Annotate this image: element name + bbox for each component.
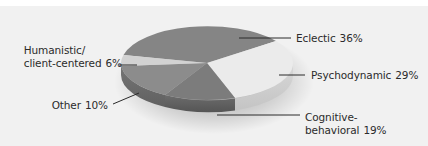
label-other-name: Other <box>52 99 81 111</box>
label-other: Other10% <box>52 99 108 112</box>
label-cognitive-pct: 19% <box>363 124 386 136</box>
label-eclectic-pct: 36% <box>340 32 363 44</box>
label-psychodynamic: Psychodynamic29% <box>311 69 418 82</box>
pie-chart: Eclectic36% Psychodynamic29% Cognitive- … <box>0 0 428 146</box>
pie-top <box>121 26 293 100</box>
label-humanistic-line1: Humanistic/ <box>24 44 122 57</box>
label-cognitive-behavioral: Cognitive- behavioral19% <box>305 111 387 137</box>
label-psychodynamic-name: Psychodynamic <box>311 69 391 81</box>
label-humanistic-line2: client-centered <box>24 57 102 69</box>
label-psychodynamic-pct: 29% <box>395 69 418 81</box>
label-eclectic-name: Eclectic <box>296 32 336 44</box>
label-other-pct: 10% <box>85 99 108 111</box>
label-cognitive-line1: Cognitive- <box>305 111 387 124</box>
label-humanistic-pct: 6% <box>106 57 122 69</box>
label-humanistic: Humanistic/ client-centered6% <box>24 44 122 70</box>
label-cognitive-line2: behavioral <box>305 124 359 136</box>
label-eclectic: Eclectic36% <box>296 32 363 45</box>
